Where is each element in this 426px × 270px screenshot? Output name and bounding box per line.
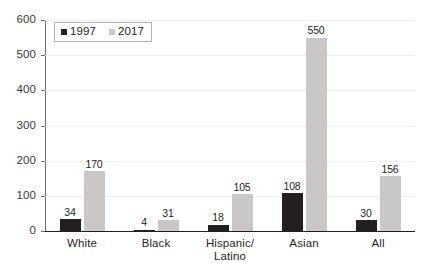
legend-swatch-1997-icon [61,29,67,35]
bar-value-label: 31 [148,208,188,219]
bar-1997-all[interactable] [356,220,377,231]
y-tick-label-300: 300 [0,120,36,132]
legend-entry-2017[interactable]: 2017 [109,26,144,38]
bar-chart: 0100200300400500600 34170431181051085503… [0,0,426,270]
chart-legend: 1997 2017 [54,22,152,42]
bar-2017-hispanic-latino[interactable] [232,194,253,231]
x-axis-label-line: Latino [170,250,290,263]
bar-group-asian: 108550 [282,20,327,231]
bar-2017-asian[interactable] [306,38,327,231]
bar-value-label: 550 [296,25,336,36]
bar-1997-asian[interactable] [282,193,303,231]
y-tick-label-200: 200 [0,155,36,167]
y-tick-label-500: 500 [0,49,36,61]
legend-label-2017: 2017 [118,26,144,38]
plot-area: 341704311810510855030156 [45,20,415,231]
bar-1997-white[interactable] [60,219,81,231]
x-axis-label-line: All [318,237,426,250]
legend-entry-1997[interactable]: 1997 [61,26,96,38]
bar-value-label: 156 [370,164,410,175]
legend-swatch-2017-icon [109,29,115,35]
bar-2017-white[interactable] [84,171,105,231]
bar-group-all: 30156 [356,20,401,231]
bar-group-black: 431 [134,20,179,231]
x-axis-label-all: All [318,237,426,250]
bar-2017-black[interactable] [158,220,179,231]
bar-1997-hispanic-latino[interactable] [208,225,229,231]
bar-group-white: 34170 [60,20,105,231]
bar-value-label: 170 [74,159,114,170]
y-tick-label-100: 100 [0,190,36,202]
bar-value-label: 105 [222,182,262,193]
bar-1997-black[interactable] [134,230,155,231]
y-tick-label-400: 400 [0,84,36,96]
x-axis-baseline [45,231,415,232]
bar-group-hispanic-latino: 18105 [208,20,253,231]
y-tick-label-600: 600 [0,14,36,26]
bar-2017-all[interactable] [380,176,401,231]
y-tick-label-0: 0 [0,225,36,237]
y-tick-mark-0 [41,231,45,232]
legend-label-1997: 1997 [70,26,96,38]
